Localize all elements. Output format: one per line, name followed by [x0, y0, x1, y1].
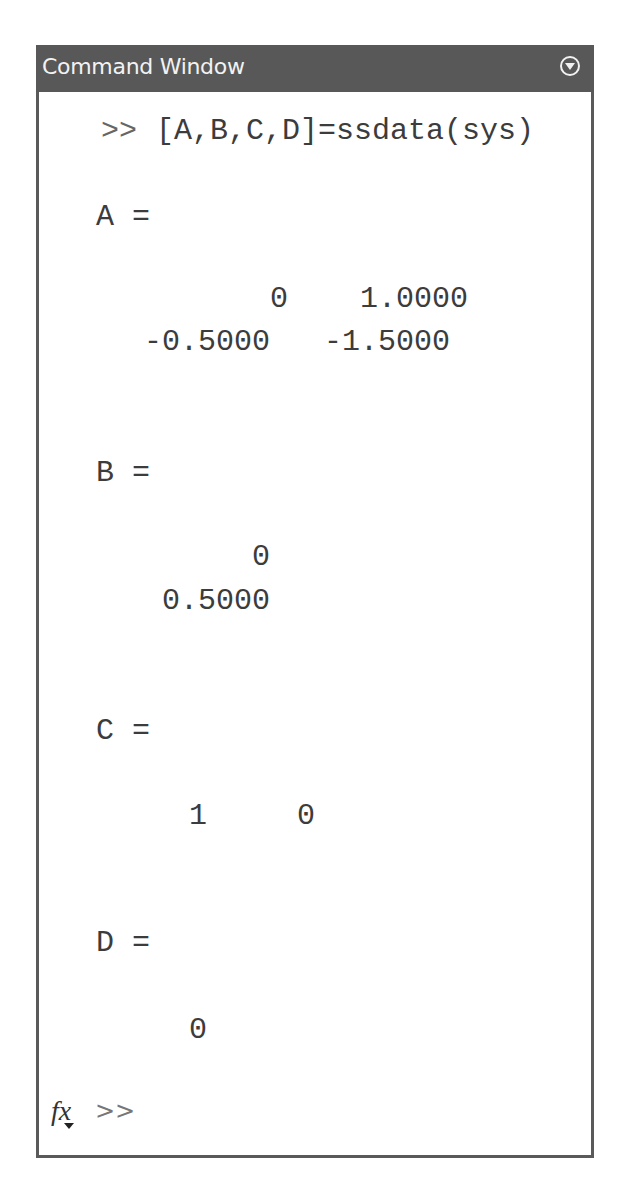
matrix-a-row-1: 0 1.0000: [144, 282, 468, 316]
matrix-b-row-1: 0: [144, 540, 270, 574]
circle-chevron-down-icon[interactable]: [560, 56, 580, 76]
matrix-a-row-2: -0.5000 -1.5000: [144, 325, 450, 359]
command-window-titlebar: Command Window: [36, 45, 594, 92]
matrix-c-row-1: 1 0: [189, 799, 315, 833]
output-label-d: D =: [96, 926, 150, 960]
fx-dropdown-arrow-icon[interactable]: [64, 1123, 74, 1129]
output-label-b: B =: [96, 456, 150, 490]
matrix-d-row-1: 0: [189, 1013, 207, 1047]
output-label-c: C =: [96, 714, 150, 748]
input-prompt[interactable]: >>: [95, 1097, 135, 1125]
command-prompt: >>: [101, 114, 137, 148]
command-window: Command Window >> [A,B,C,D]=ssdata(sys) …: [36, 45, 594, 1158]
window-title: Command Window: [42, 43, 245, 90]
executed-command: [A,B,C,D]=ssdata(sys): [156, 114, 534, 148]
matrix-b-row-2: 0.5000: [144, 584, 270, 618]
output-label-a: A =: [96, 200, 150, 234]
